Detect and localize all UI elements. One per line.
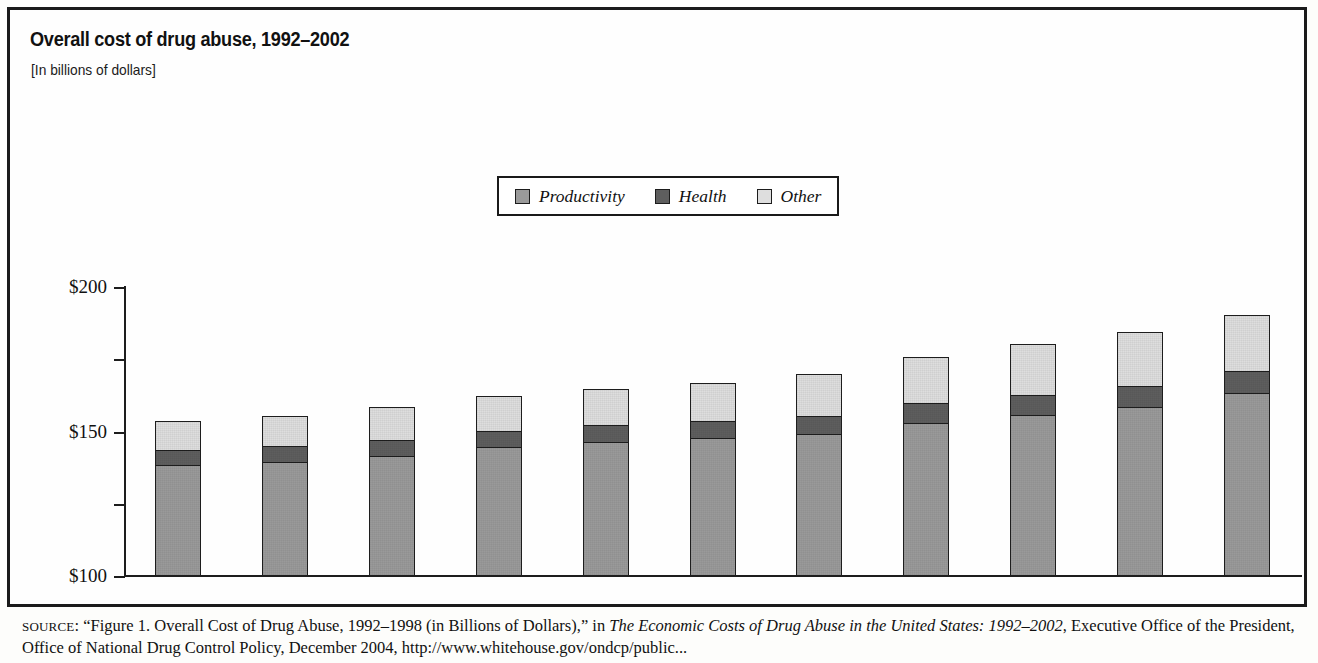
bar-segment-productivity: [1118, 408, 1162, 575]
bar-segment-other: [584, 390, 628, 426]
bar-segment-other: [797, 375, 841, 416]
bar-segment-health: [156, 450, 200, 466]
y-axis-label: $100: [69, 565, 107, 587]
bar-segment-productivity: [263, 463, 307, 575]
bar-segment-other: [1225, 316, 1269, 371]
figure-subtitle: [In billions of dollars]: [31, 62, 156, 78]
bar-2001: $169.2: [1117, 332, 1163, 576]
bar-1996: $129.6: [583, 389, 629, 576]
bar-2000: $160.7: [1010, 344, 1056, 576]
legend-item-health: Health: [655, 186, 727, 207]
legend-swatch-icon: [757, 189, 772, 204]
page-title: Overall cost of drug abuse, 1992–2002: [30, 28, 349, 51]
bar-segment-other: [263, 417, 307, 446]
bar-segment-productivity: [370, 457, 414, 575]
bar-segment-productivity: [477, 448, 521, 575]
bar-segment-health: [263, 446, 307, 463]
bar-segment-other: [370, 408, 414, 440]
bar-segment-health: [691, 421, 735, 439]
bar-1997: $133.9: [690, 383, 736, 576]
bar-segment-health: [797, 416, 841, 436]
figure-frame: Overall cost of drug abuse, 1992–2002 [I…: [7, 7, 1307, 607]
bar-segment-health: [904, 403, 948, 424]
bar-segment-productivity: [1225, 394, 1269, 575]
bar-segment-other: [904, 358, 948, 403]
bar-1993: $110.9: [262, 416, 308, 576]
bar-segment-other: [156, 422, 200, 450]
bar-1995: $124.9: [476, 396, 522, 576]
bar-segment-productivity: [156, 466, 200, 575]
bar-1992: $107.5: [155, 421, 201, 576]
legend-item-productivity: Productivity: [515, 186, 625, 207]
bar-segment-other: [1118, 333, 1162, 386]
y-axis-label: $150: [69, 420, 107, 442]
bar-segment-productivity: [584, 443, 628, 575]
bar-segment-health: [370, 440, 414, 457]
bar-segment-health: [1225, 371, 1269, 394]
chart-legend: ProductivityHealthOther: [497, 176, 839, 216]
y-axis-tick: $200: [114, 287, 125, 289]
legend-label: Other: [781, 186, 822, 207]
legend-item-other: Other: [757, 186, 822, 207]
plot-area: $0$50$100$150$200$107.51992$110.91993$11…: [125, 287, 1300, 576]
legend-swatch-icon: [655, 189, 670, 204]
bar-1999: $151.4: [903, 357, 949, 576]
bar-1994: $117.3: [369, 407, 415, 576]
source-prefix: SOURCE: [22, 619, 75, 634]
bar-2002: $180.8: [1224, 315, 1270, 576]
bar-segment-productivity: [904, 424, 948, 575]
y-axis-tick: $50: [114, 504, 125, 506]
bar-segment-productivity: [691, 439, 735, 575]
bar-segment-other: [691, 384, 735, 421]
legend-swatch-icon: [515, 189, 530, 204]
y-axis-tick: $150: [114, 359, 125, 361]
bar-segment-health: [584, 425, 628, 442]
bar-segment-health: [1118, 386, 1162, 408]
source-text-a: : “Figure 1. Overall Cost of Drug Abuse,…: [75, 616, 610, 635]
bar-1998: $140.1: [796, 374, 842, 576]
bar-segment-productivity: [1011, 416, 1055, 575]
y-axis-tick: $0: [114, 576, 125, 578]
y-axis-label: $200: [69, 276, 107, 298]
bar-segment-productivity: [797, 435, 841, 575]
source-publication-years: 1992–2002: [989, 616, 1063, 635]
bar-segment-health: [1011, 395, 1055, 416]
bar-segment-other: [1011, 345, 1055, 395]
bar-segment-health: [477, 431, 521, 448]
y-axis-tick: $100: [114, 432, 125, 434]
bar-segment-other: [477, 397, 521, 432]
source-publication-title: The Economic Costs of Drug Abuse in the …: [609, 616, 984, 635]
legend-label: Productivity: [539, 186, 625, 207]
legend-label: Health: [679, 186, 727, 207]
source-note: SOURCE: “Figure 1. Overall Cost of Drug …: [22, 615, 1307, 658]
